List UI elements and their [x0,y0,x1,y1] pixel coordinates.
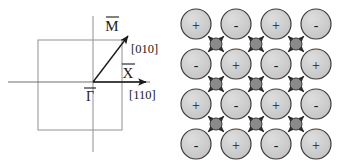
label-gamma-bar: Γ [84,88,96,104]
displacement-arrow-up-left [288,76,290,78]
ion-charge-sign: + [312,58,320,73]
figure-root: M X Γ [010] [110] [0,0,344,164]
displacement-arrow-down-left [288,89,290,91]
brillouin-zone-square [38,40,122,130]
ion-charge-sign: + [272,18,280,33]
displacement-arrow-down-right [261,89,263,91]
label-x-bar: X [122,64,135,81]
displacement-arrow-up-left [288,36,290,38]
displacement-arrow-down-right [221,49,223,51]
interstitial-site [210,118,222,130]
interstitial-site [290,78,302,90]
ion-charge-sign: + [192,98,200,113]
m-bar-text: M [105,18,118,34]
displacement-arrow-down-right [261,49,263,51]
ion-charge-sign: + [272,98,280,113]
displacement-arrow-down-left [208,89,210,91]
label-m-bar: M [105,17,119,34]
interstitial-site [290,38,302,50]
interstitial-site [250,38,262,50]
displacement-arrow-down-right [301,129,303,131]
displacement-arrow-down-left [248,49,250,51]
displacement-arrow-up-left [248,36,250,38]
displacement-arrow-up-right [301,116,303,118]
panel-brillouin-zone: M X Γ [010] [110] [0,0,172,164]
displacement-arrow-up-left [248,76,250,78]
displacement-arrow-down-left [288,129,290,131]
displacement-arrow-up-right [301,36,303,38]
displacement-arrow-up-left [208,76,210,78]
displacement-arrow-up-left [208,116,210,118]
interstitial-site [210,38,222,50]
ion-charge-sign: + [192,18,200,33]
displacement-arrow-down-right [221,89,223,91]
displacement-arrow-up-right [261,76,263,78]
gamma-bar-text: Γ [86,89,94,104]
displacement-arrow-down-left [208,49,210,51]
displacement-arrow-down-right [261,129,263,131]
displacement-arrow-up-left [288,116,290,118]
interstitial-site [250,78,262,90]
interstitial-group [210,38,302,130]
displacement-arrow-up-right [221,36,223,38]
ion-charge-sign: + [232,138,240,153]
ion-charge-sign: - [314,98,319,113]
displacement-arrow-down-right [301,89,303,91]
displacement-arrow-down-left [248,89,250,91]
ion-charge-sign: - [234,98,239,113]
interstitial-site [250,118,262,130]
displacement-arrow-up-right [221,76,223,78]
interstitial-site [210,78,222,90]
x-bar-text: X [123,65,134,81]
ion-charge-sign: - [274,58,279,73]
displacement-arrow-up-right [221,116,223,118]
displacement-arrow-down-right [221,129,223,131]
ion-charge-sign: + [232,58,240,73]
ion-charge-sign: - [274,138,279,153]
displacement-arrow-up-right [301,76,303,78]
ion-charge-sign: - [194,58,199,73]
displacement-arrow-down-left [208,129,210,131]
direction-110-label: [110] [129,88,156,102]
ion-charge-sign: - [314,18,319,33]
ion-charge-sign: - [194,138,199,153]
displacement-arrow-up-right [261,36,263,38]
displacement-arrow-up-left [208,36,210,38]
ion-charge-sign: + [312,138,320,153]
panel-charge-ordered-lattice: +-+--+-++-+--+-+ [172,0,344,164]
displacement-arrow-up-right [261,116,263,118]
lattice-svg: +-+--+-++-+--+-+ [172,0,344,164]
interstitial-site [290,118,302,130]
displacement-arrow-up-left [248,116,250,118]
displacement-arrow-down-right [301,49,303,51]
displacement-arrow-down-left [248,129,250,131]
brillouin-zone-svg: M X Γ [010] [110] [0,0,172,164]
displacement-arrow-down-left [288,49,290,51]
direction-010-label: [010] [131,42,158,56]
ion-charge-sign: - [234,18,239,33]
